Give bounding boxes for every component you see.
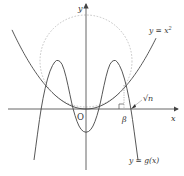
parabola-label: y = x2 [148, 25, 172, 36]
sqrt-n-label: √n [143, 94, 153, 103]
pointer-arrowhead [131, 104, 136, 109]
right-angle-marker [119, 104, 124, 109]
y-axis-label: y [77, 4, 83, 13]
g-curve-label: y = g(x) [128, 156, 159, 165]
beta-label: β [121, 115, 127, 124]
parabola-exponent: 2 [168, 25, 172, 31]
parabola-curve [12, 30, 156, 109]
origin-label: O [77, 112, 84, 122]
diagram-canvas: y x O y = x2 y = g(x) β √n [0, 0, 184, 176]
x-axis-label: x [171, 114, 176, 123]
